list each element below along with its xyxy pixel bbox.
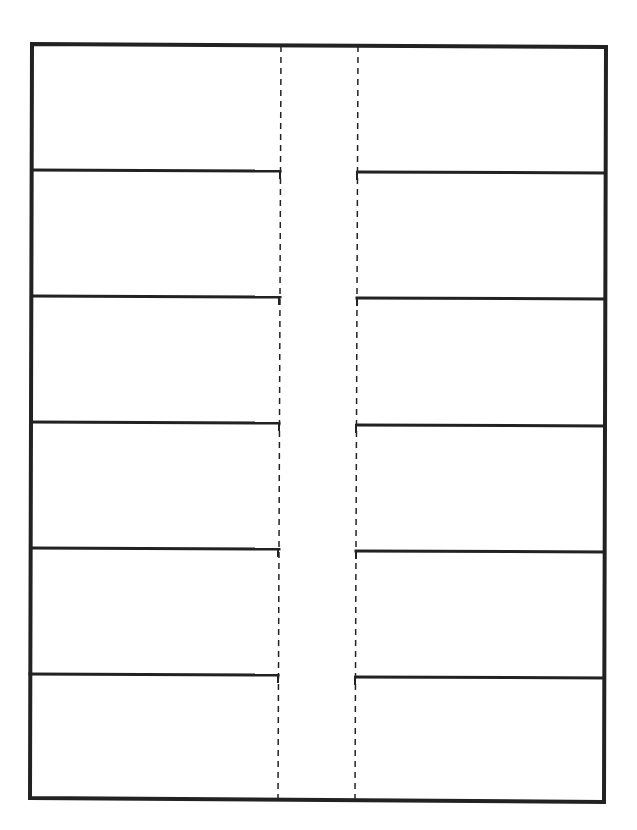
cut-tick-marks [278, 171, 357, 684]
left-cut-line-5 [30, 674, 278, 675]
left-cut-line-3 [31, 422, 279, 423]
right-cut-line-1 [358, 172, 605, 173]
right-flap-cuts [356, 172, 605, 678]
right-cut-line-4 [356, 551, 604, 552]
foldable-template-drawing [0, 0, 637, 830]
left-cut-line-4 [31, 548, 279, 549]
right-cut-line-3 [357, 425, 605, 426]
left-flap-cuts [30, 170, 280, 675]
left-cut-line-1 [32, 170, 280, 171]
fold-line-right [355, 46, 358, 800]
right-cut-line-5 [356, 677, 604, 678]
left-cut-line-2 [32, 296, 280, 297]
right-cut-line-2 [357, 298, 605, 299]
